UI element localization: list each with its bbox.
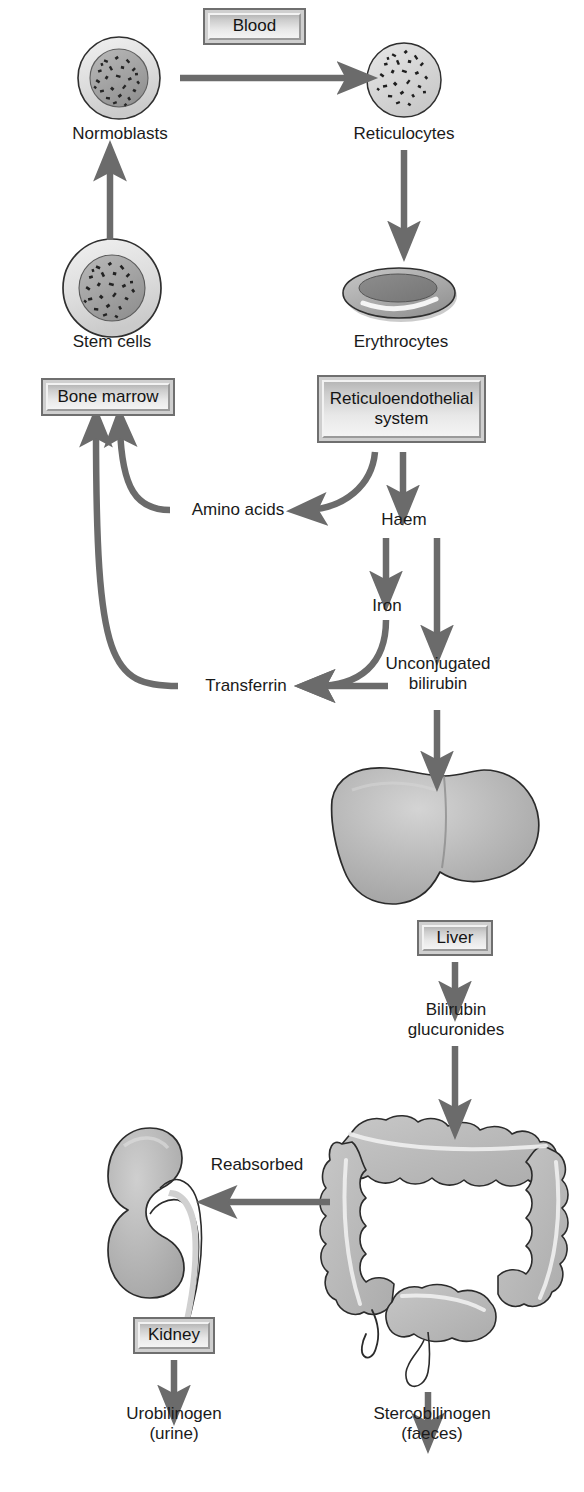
label-reabsorbed: Reabsorbed (198, 1155, 316, 1176)
label-haem: Haem (373, 510, 435, 531)
label-erythrocytes: Erythrocytes (336, 332, 466, 353)
box-reticuloendothelial-system-label: Reticuloendothelial system (322, 380, 481, 438)
diagram-canvas: Blood Bone marrow Reticuloendothelial sy… (0, 0, 584, 1492)
label-transferrin: Transferrin (186, 676, 306, 697)
label-stercobilinogen: Stercobilinogen (faeces) (356, 1404, 508, 1445)
erythrocyte-cell-graphic (343, 268, 457, 322)
label-urobilinogen: Urobilinogen (urine) (104, 1404, 244, 1445)
box-kidney[interactable]: Kidney (133, 1317, 215, 1354)
label-amino-acids: Amino acids (178, 500, 298, 521)
box-liver[interactable]: Liver (417, 920, 493, 956)
pathway-illustration (0, 0, 584, 1492)
box-bone-marrow[interactable]: Bone marrow (41, 378, 175, 416)
box-bone-marrow-label: Bone marrow (46, 383, 170, 411)
kidney-organ-graphic (108, 1128, 202, 1340)
label-reticulocytes: Reticulocytes (338, 124, 470, 145)
label-bilirubin-glucuronides: Bilirubin glucuronides (381, 1000, 531, 1041)
box-liver-label: Liver (422, 925, 488, 951)
box-blood-label: Blood (208, 13, 301, 40)
liver-organ-graphic (332, 768, 539, 904)
label-stem-cells: Stem cells (52, 332, 172, 353)
box-kidney-label: Kidney (138, 1322, 210, 1349)
label-normoblasts: Normoblasts (60, 124, 180, 145)
label-unconjugated-bilirubin: Unconjugated bilirubin (376, 654, 500, 695)
stem-cell-graphic (63, 239, 161, 337)
box-blood[interactable]: Blood (203, 8, 306, 45)
colon-organ-graphic (320, 1116, 568, 1387)
box-reticuloendothelial-system[interactable]: Reticuloendothelial system (317, 375, 486, 443)
label-iron: Iron (362, 596, 412, 617)
reticulocyte-cell-graphic (367, 43, 441, 117)
normoblast-cell-graphic (78, 37, 160, 119)
